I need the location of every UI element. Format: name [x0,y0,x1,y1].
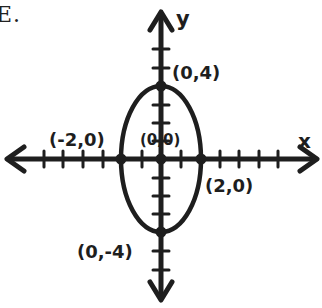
x-axis-label: x [298,129,311,153]
point-center [156,154,167,165]
point-top-vertex [156,81,167,92]
label-bottom-vertex: (0,-4) [77,241,133,262]
point-right-covertex [196,154,207,165]
ellipse-graph: y x (0,4) (0,-4) (-2,0) (2,0) (0,0) [0,0,322,308]
label-center: (0,0) [140,131,180,149]
y-axis-label: y [176,7,190,31]
point-bottom-vertex [156,227,167,238]
label-right-covertex: (2,0) [205,175,253,196]
point-left-covertex [116,154,127,165]
label-top-vertex: (0,4) [172,62,220,83]
label-left-covertex: (-2,0) [49,129,105,150]
